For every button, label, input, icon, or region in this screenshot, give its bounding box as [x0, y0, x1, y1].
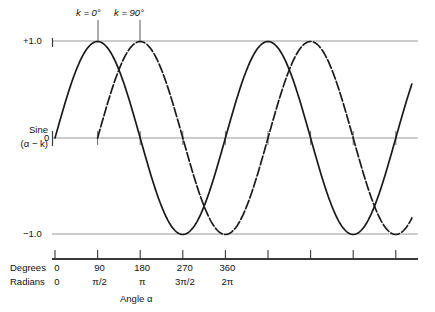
x-tick-label-radians-0: 0	[47, 277, 67, 287]
annotation-k-90-text: k = 90°	[114, 7, 144, 18]
x-tick-label-radians-2: π	[132, 277, 152, 287]
x-tick-label-degrees-1: 90	[90, 263, 110, 273]
x-tick-label-degrees-4: 360	[217, 263, 237, 273]
y-tick-label-plus-one: +1.0	[23, 36, 42, 46]
x-axis-row-label-degrees: Degrees	[10, 263, 46, 273]
x-axis-title: Angle α	[120, 294, 152, 304]
x-axis-ticks	[55, 250, 396, 259]
y-tick-label-minus-one: −1.0	[23, 229, 42, 239]
x-axis-row-label-radians: Radians	[10, 277, 45, 287]
x-tick-label-radians-1: π/2	[90, 277, 110, 287]
x-tick-label-radians-3: 3π/2	[175, 277, 195, 287]
y-tick-label-zero: 0	[44, 133, 49, 143]
annotation-k-90-degrees: k = 90°	[114, 8, 144, 18]
y-axis-title-line1: Sine	[10, 125, 48, 135]
x-tick-label-degrees-3: 270	[175, 263, 195, 273]
x-tick-label-radians-4: 2π	[217, 277, 237, 287]
y-axis-title-line2: (α − k)	[6, 139, 48, 149]
annotation-k-0-degrees: k = 0°	[76, 8, 101, 18]
x-tick-label-degrees-2: 180	[132, 263, 152, 273]
x-tick-label-degrees-0: 0	[47, 263, 67, 273]
annotation-k-0-text: k = 0°	[76, 7, 101, 18]
